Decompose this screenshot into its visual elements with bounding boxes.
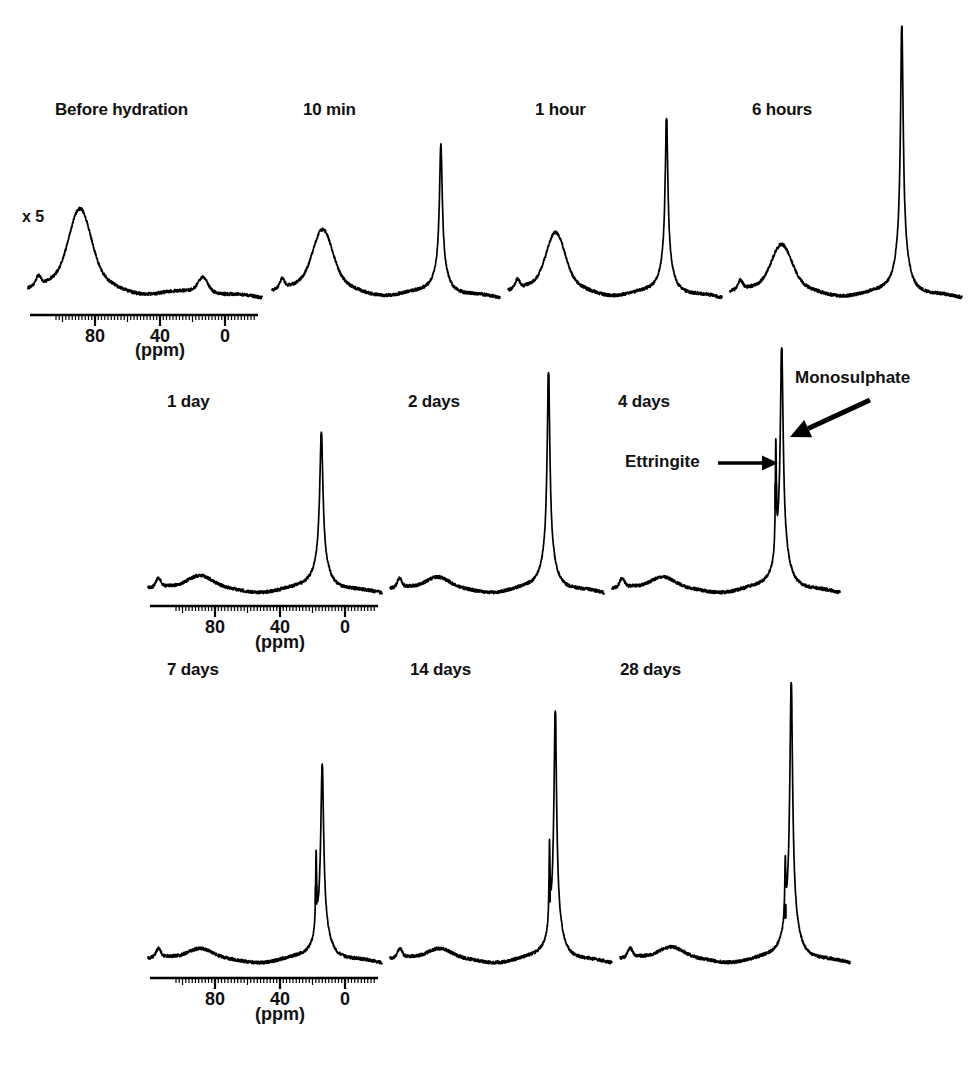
axis-unit-label: (ppm) xyxy=(135,340,185,361)
panel-label-1-hour: 1 hour xyxy=(535,100,586,120)
ettringite-arrow xyxy=(718,456,778,471)
panel-label-1-day: 1 day xyxy=(167,392,209,412)
arrow-head xyxy=(790,420,812,437)
row-1-group xyxy=(28,26,962,298)
annotation-label-ettringite: Ettringite xyxy=(625,452,700,472)
spectrum-trace-7-days xyxy=(148,764,382,964)
panel-label-28-days: 28 days xyxy=(620,660,681,680)
panel-label-14-days: 14 days xyxy=(410,660,471,680)
panel-label-6-hours: 6 hours xyxy=(752,100,812,120)
spectrum-trace-6-hours xyxy=(730,26,962,298)
row-2-ppm-axis xyxy=(150,606,378,617)
axis-tick-label-80: 80 xyxy=(85,326,105,347)
monosulphate-arrow xyxy=(790,400,870,437)
spectra-trace-layer xyxy=(0,0,968,1086)
axis-unit-label: (ppm) xyxy=(255,632,305,653)
annotation-label-monosulphate: Monosulphate xyxy=(795,368,910,388)
spectrum-trace-28-days xyxy=(620,683,850,964)
row-3-group xyxy=(148,683,850,964)
vertical-scale-note: x 5 xyxy=(22,208,44,226)
arrow-shaft xyxy=(808,400,870,429)
spectrum-trace-1-hour xyxy=(508,119,722,299)
panel-label-2-days: 2 days xyxy=(408,392,460,412)
row-2-group xyxy=(148,348,840,594)
spectrum-trace-1-day xyxy=(148,432,382,594)
axis-tick-label-0: 0 xyxy=(340,989,350,1010)
panel-label-7-days: 7 days xyxy=(167,660,219,680)
row-1-ppm-axis xyxy=(30,315,258,326)
row-3-ppm-axis xyxy=(150,978,378,989)
axis-tick-label-0: 0 xyxy=(340,617,350,638)
panel-label-4-days: 4 days xyxy=(618,392,670,412)
nmr-spectra-figure: x 5 Before hydration10 min1 hour6 hours8… xyxy=(0,0,968,1086)
axis-unit-label: (ppm) xyxy=(255,1004,305,1025)
axis-tick-label-80: 80 xyxy=(205,617,225,638)
panel-label-10-min: 10 min xyxy=(303,100,356,120)
panel-label-before-hydration: Before hydration xyxy=(55,100,188,120)
spectrum-trace-10-min xyxy=(272,144,500,299)
axis-tick-label-80: 80 xyxy=(205,989,225,1010)
spectrum-trace-14-days xyxy=(390,711,612,964)
axis-tick-label-0: 0 xyxy=(220,326,230,347)
arrow-head xyxy=(762,456,778,471)
spectrum-trace-before-hydration xyxy=(28,207,262,298)
